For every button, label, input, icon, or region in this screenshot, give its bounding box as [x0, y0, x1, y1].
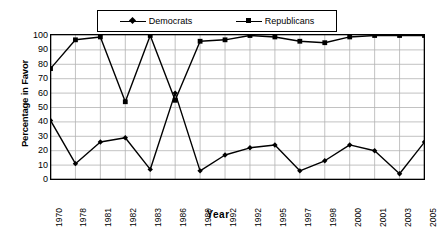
y-tick-label: 80: [38, 60, 48, 69]
data-point-square: [198, 39, 203, 44]
data-point-square: [73, 37, 78, 42]
plot-svg: [50, 34, 425, 180]
y-tick-label: 50: [38, 103, 48, 112]
y-tick-label: 60: [38, 89, 48, 98]
data-point-diamond: [247, 145, 252, 150]
y-tick-label: 100: [33, 31, 48, 40]
legend-entry-democrats: Democrats: [120, 16, 193, 26]
y-tick-label: 10: [38, 161, 48, 170]
series-democrats: [50, 90, 425, 176]
legend-label-democrats: Democrats: [149, 16, 193, 26]
data-point-square: [123, 99, 128, 104]
legend-marker-diamond-icon: [120, 16, 146, 26]
legend-entry-republicans: Republicans: [236, 16, 315, 26]
y-tick-label: 0: [43, 175, 48, 184]
plot-area: [50, 34, 425, 180]
data-point-square: [223, 37, 228, 42]
y-tick-label: 70: [38, 74, 48, 83]
y-tick-label: 30: [38, 132, 48, 141]
series-republicans: [50, 34, 425, 104]
legend-marker-square-icon: [236, 16, 262, 26]
y-tick-label: 40: [38, 117, 48, 126]
x-axis-tick-labels: 1970197819811982198319861989199219921995…: [50, 182, 425, 210]
plot-border: [51, 35, 425, 180]
series-line: [51, 36, 425, 102]
series-line: [51, 93, 425, 174]
y-tick-label: 90: [38, 45, 48, 54]
y-axis-tick-labels: 1009080706050403020100: [22, 34, 48, 180]
chart-legend: Democrats Republicans: [97, 10, 337, 32]
data-point-square: [322, 40, 327, 45]
data-point-square: [297, 39, 302, 44]
y-tick-label: 20: [38, 146, 48, 155]
legend-label-republicans: Republicans: [265, 16, 315, 26]
gridlines: [51, 35, 425, 180]
x-axis-title: Year: [0, 209, 436, 220]
data-point-square: [173, 98, 178, 103]
data-series-layer: [50, 34, 425, 176]
